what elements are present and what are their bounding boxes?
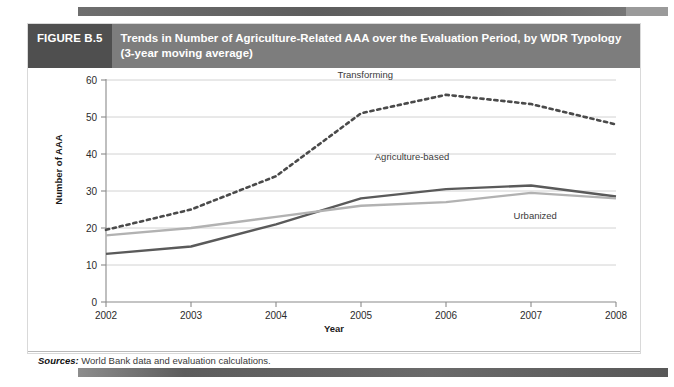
page-decor-rule-top <box>78 7 668 16</box>
x-axis-tick-label: 2005 <box>350 310 373 321</box>
x-axis-tick-label: 2006 <box>435 310 458 321</box>
series-label-urbanized: Urbanized <box>514 210 557 221</box>
sources-divider <box>28 351 640 352</box>
figure-header: FIGURE B.5 Trends in Number of Agricultu… <box>28 24 640 68</box>
x-axis-title: Year <box>28 323 640 334</box>
x-axis-tick-label: 2007 <box>520 310 543 321</box>
x-axis-tick-label: 2008 <box>605 310 628 321</box>
y-axis-tick-label: 10 <box>86 260 98 271</box>
x-axis-tick-label: 2002 <box>95 310 118 321</box>
y-axis-tick-label: 50 <box>86 112 98 123</box>
figure-container: FIGURE B.5 Trends in Number of Agricultu… <box>28 24 640 353</box>
y-axis-tick-label: 20 <box>86 223 98 234</box>
sources-label: Sources: <box>38 355 79 366</box>
figure-title: Trends in Number of Agriculture-Related … <box>112 24 640 68</box>
x-axis-tick-label: 2004 <box>265 310 288 321</box>
sources-text: World Bank data and evaluation calculati… <box>79 355 271 366</box>
series-label-transforming: Transforming <box>337 69 393 80</box>
y-axis-tick-label: 0 <box>91 297 97 308</box>
y-axis-tick-label: 40 <box>86 149 98 160</box>
figure-title-line1: Trends in Number of Agriculture-Related … <box>121 32 622 44</box>
plot-area: Number of AAA 01020304050602002200320042… <box>28 68 640 353</box>
series-label-agriculture-based: Agriculture-based <box>375 151 449 162</box>
figure-number-label: FIGURE B.5 <box>28 24 112 68</box>
y-axis-tick-label: 30 <box>86 186 98 197</box>
sources-note: Sources: World Bank data and evaluation … <box>38 355 271 366</box>
x-axis-tick-label: 2003 <box>180 310 203 321</box>
page-decor-rule-bottom <box>78 368 668 377</box>
line-chart: 0102030405060200220032004200520062007200… <box>28 68 640 326</box>
y-axis-tick-label: 60 <box>86 75 98 86</box>
figure-title-line2: (3-year moving average) <box>121 46 632 61</box>
